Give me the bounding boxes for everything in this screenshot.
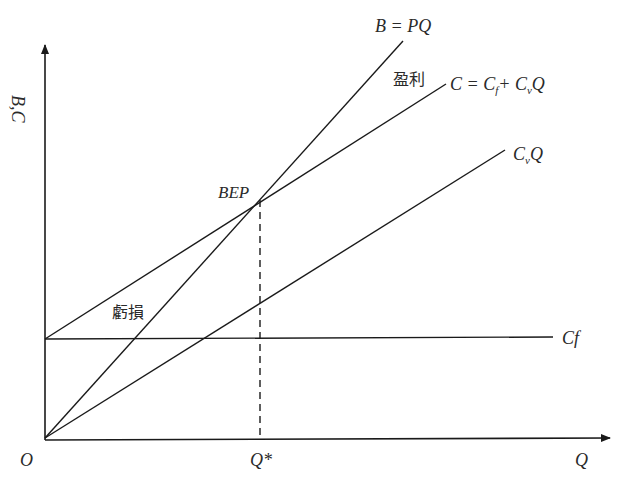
total-cost-line [45, 84, 446, 339]
fixed-cost-line-label: Cf [562, 328, 582, 348]
break-even-diagram: B,C O Q* Q B = PQ C = Cf+ CvQ CvQ Cf BEP… [0, 0, 626, 497]
revenue-line-label: B = PQ [375, 16, 431, 36]
origin-label: O [20, 450, 33, 470]
total-cost-line-label: C = Cf+ CvQ [450, 74, 545, 96]
variable-cost-line-label: CvQ [513, 144, 543, 166]
breakeven-point-label: BEP [218, 183, 249, 202]
y-axis-label: B,C [8, 95, 28, 123]
breakeven-quantity-label: Q* [250, 450, 272, 470]
profit-region-label: 盈利 [393, 70, 425, 89]
x-axis-label: Q [575, 450, 588, 470]
loss-region-label: 虧損 [112, 303, 144, 322]
x-axis [45, 438, 610, 440]
revenue-line [45, 41, 403, 438]
fixed-cost-line [45, 337, 553, 339]
